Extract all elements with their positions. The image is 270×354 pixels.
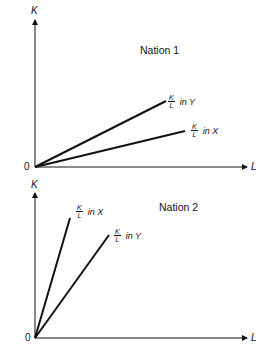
fraction-numerator: K	[76, 204, 83, 212]
nation2-label-x: KL in X	[76, 204, 103, 219]
fraction-denominator: L	[192, 131, 196, 138]
nation1-line-x	[35, 131, 185, 167]
series-suffix: in X	[203, 126, 219, 136]
fraction-denominator: L	[115, 236, 119, 243]
fraction-numerator: K	[114, 228, 121, 236]
nation1-origin-label: 0	[24, 162, 30, 172]
diagram-canvas	[0, 0, 270, 354]
nation2-title: Nation 2	[159, 202, 198, 213]
nation2-origin-label: 0	[25, 333, 31, 343]
nation2-x-axis-label: L	[251, 333, 257, 343]
series-suffix: in Y	[180, 97, 195, 107]
nation1-x-axis-label: L	[251, 162, 257, 172]
nation2-line-y	[35, 235, 109, 338]
series-suffix: in X	[88, 207, 104, 217]
nation2-y-axis-label: K	[31, 180, 38, 190]
fraction-denominator: L	[169, 102, 173, 109]
nation2-label-y: KL in Y	[114, 228, 141, 243]
nation1-label-y: KL in Y	[168, 94, 195, 109]
nation1-line-y	[35, 101, 166, 167]
series-suffix: in Y	[126, 231, 141, 241]
nation1-label-x: KL in X	[191, 123, 218, 138]
nation1-title: Nation 1	[140, 45, 179, 56]
nation1-y-axis-label: K	[31, 6, 38, 16]
fraction-numerator: K	[168, 94, 175, 102]
fraction-denominator: L	[77, 212, 81, 219]
nation2-line-x	[35, 218, 70, 338]
fraction-numerator: K	[191, 123, 198, 131]
